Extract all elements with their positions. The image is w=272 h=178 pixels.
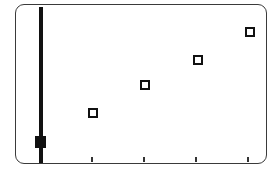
data-point-marker-2: [140, 80, 150, 90]
x-tick-3: [195, 157, 197, 162]
x-tick-4: [247, 157, 249, 162]
x-tick-2: [143, 157, 145, 162]
data-point-marker-1: [88, 108, 98, 118]
vertical-slider-handle[interactable]: [35, 136, 46, 148]
data-point-marker-4: [245, 27, 255, 37]
data-point-marker-3: [193, 55, 203, 65]
x-tick-1: [91, 157, 93, 162]
